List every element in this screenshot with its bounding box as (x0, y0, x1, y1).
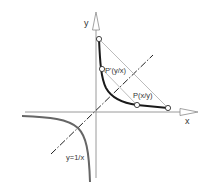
x-axis-label: x (185, 116, 190, 126)
y-axis-arrow-icon (93, 12, 100, 30)
point-p-prime (99, 66, 104, 71)
x-axis-arrow-icon (180, 109, 198, 116)
point-p-label: P(x/y) (133, 91, 153, 100)
y-axis-label: y (84, 18, 89, 28)
point-p-prime-label: P'(y/x) (105, 66, 127, 75)
curve-label: y=1/x (66, 153, 84, 162)
point-p (134, 102, 139, 107)
point-top (96, 36, 101, 41)
point-right (165, 105, 170, 110)
reciprocal-function-diagram: y x P'(y/x) P(x/y) y=1/x (0, 0, 212, 189)
